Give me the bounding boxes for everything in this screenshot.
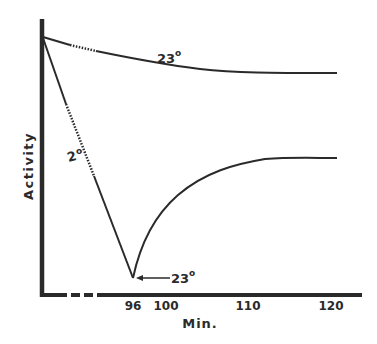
tick-label-96: 96: [125, 299, 142, 313]
tick-label-120: 120: [318, 299, 343, 313]
series-23-upper: [43, 37, 337, 73]
arrow-label: 23: [171, 271, 189, 286]
activity-chart: Activity 96 100 110 120 Min. 23 o 2 o 23…: [0, 0, 377, 344]
arrow-annotation: [136, 275, 170, 281]
x-axis-label: Min.: [182, 316, 218, 331]
descent-curve-degree: o: [76, 146, 82, 156]
series-2-lower: [43, 38, 337, 278]
tick-label-110: 110: [235, 299, 260, 313]
y-axis-label: Activity: [21, 132, 36, 200]
upper-curve-degree: o: [175, 48, 181, 58]
arrow-label-degree: o: [189, 268, 195, 278]
tick-label-100: 100: [153, 299, 178, 313]
upper-curve-label: 23: [157, 51, 175, 66]
